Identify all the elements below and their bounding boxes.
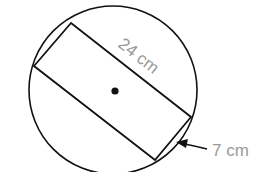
inscribed-rectangle-diagram: 24 cm 7 cm [0,0,271,172]
long-side-label: 24 cm [115,34,163,77]
short-side-label: 7 cm [212,141,249,160]
center-point [111,87,118,94]
